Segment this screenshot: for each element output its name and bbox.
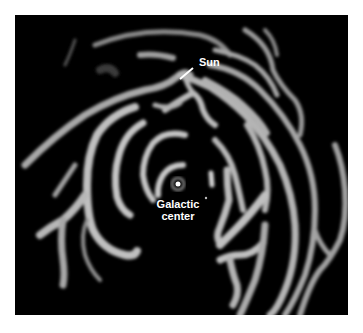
galactic-center-label-line2: center: [153, 210, 203, 222]
galactic-center-label: Galactic center: [153, 198, 203, 222]
galaxy-map-panel: Sun Galactic center: [15, 15, 348, 315]
small-star-dot: [205, 197, 207, 199]
galactic-center-label-line1: Galactic: [153, 198, 203, 210]
galactic-center-dot: [176, 182, 181, 187]
sun-label: Sun: [199, 56, 220, 68]
spiral-arms-graphic: [15, 15, 348, 315]
